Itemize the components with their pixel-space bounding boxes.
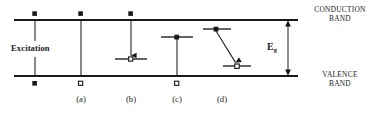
transition-d-electron-marker [214,27,219,32]
transition-a-hole-marker [79,81,83,85]
transition-d-hole-marker [235,64,239,68]
transition-label-b: (b) [116,95,146,104]
transition-c-electron-marker [174,35,179,40]
band-gap-label-symbol: E [267,41,274,52]
transition-a-electron-marker [78,11,83,16]
transition-label-d: (d) [207,95,237,104]
conduction-band-label-line2: BAND [304,15,376,23]
conduction-band-label-line1: CONDUCTION [304,6,376,14]
transition-b-hole-marker [129,57,133,61]
valence-band-label-line2: BAND [304,80,376,88]
band-diagram-figure: Excitation CONDUCTION BAND VALENCE BAND … [0,0,380,113]
transition-b-electron-marker [128,11,133,16]
transition-c-hole-marker [175,81,179,85]
valence-band-label-line1: VALENCE [304,71,376,79]
excitation-electron-marker [32,11,37,16]
excitation-label: Excitation [11,44,50,53]
excitation-hole-marker [32,81,37,86]
transition-label-c: (c) [162,95,192,104]
band-gap-arrowhead-up [285,20,291,26]
band-gap-label: Eg [267,42,277,53]
transition-d-diagonal-arrow [216,31,236,63]
band-gap-arrowhead-down [285,70,291,76]
transition-label-a: (a) [66,95,96,104]
band-gap-label-subscript: g [274,46,277,53]
